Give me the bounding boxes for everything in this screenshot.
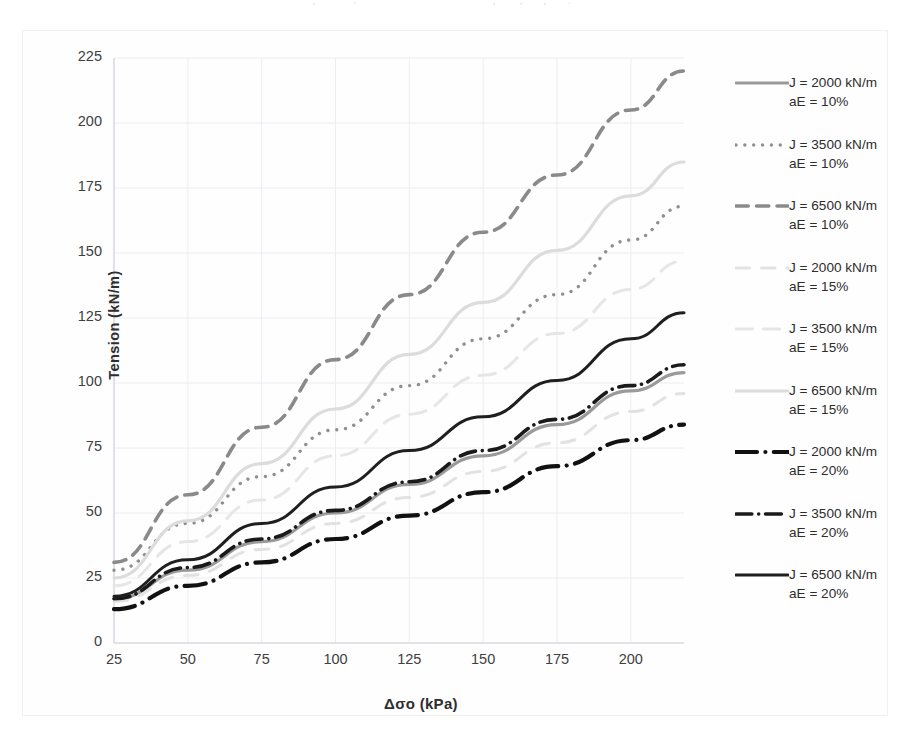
y-tick-label: 175: [56, 178, 102, 194]
scan-artifact: [280, 0, 620, 8]
legend-swatch-icon: [735, 379, 789, 413]
y-tick-label: 200: [56, 113, 102, 129]
x-tick-label: 50: [163, 651, 213, 667]
legend-item[interactable]: J = 6500 kN/maE = 20%: [735, 563, 910, 605]
legend-swatch-icon: [735, 71, 789, 105]
axis-lines: [114, 58, 684, 643]
legend-item[interactable]: J = 6500 kN/maE = 10%: [735, 194, 910, 236]
legend-swatch-icon: [735, 133, 789, 167]
legend-swatch-icon: [735, 317, 789, 351]
series-line-8: [114, 365, 684, 599]
legend-label: J = 2000 kN/maE = 20%: [789, 440, 877, 480]
y-axis-title: Tension (kN/m): [106, 230, 122, 420]
legend-label-line2: aE = 10%: [789, 215, 877, 234]
y-tick-label: 225: [56, 48, 102, 64]
legend-item[interactable]: J = 2000 kN/maE = 15%: [735, 256, 910, 298]
legend-label: J = 2000 kN/maE = 10%: [789, 71, 877, 111]
legend-item[interactable]: J = 2000 kN/maE = 20%: [735, 440, 910, 482]
legend-label-line2: aE = 15%: [789, 277, 877, 296]
legend-item[interactable]: J = 6500 kN/maE = 15%: [735, 379, 910, 421]
legend-label-line1: J = 6500 kN/m: [789, 196, 877, 215]
legend-label: J = 6500 kN/maE = 15%: [789, 379, 877, 419]
legend-label-line2: aE = 10%: [789, 154, 877, 173]
legend-label-line2: aE = 10%: [789, 92, 877, 111]
y-tick-label: 100: [56, 373, 102, 389]
legend-item[interactable]: J = 2000 kN/maE = 10%: [735, 71, 910, 113]
legend-label: J = 3500 kN/maE = 15%: [789, 317, 877, 357]
legend-label-line2: aE = 20%: [789, 584, 877, 603]
chart-legend: J = 2000 kN/maE = 10%J = 3500 kN/maE = 1…: [735, 71, 910, 625]
legend-label-line1: J = 2000 kN/m: [789, 442, 877, 461]
y-tick-label: 75: [56, 438, 102, 454]
legend-swatch-icon: [735, 440, 789, 474]
legend-label-line1: J = 3500 kN/m: [789, 319, 877, 338]
x-tick-label: 125: [384, 651, 434, 667]
legend-label: J = 3500 kN/maE = 10%: [789, 133, 877, 173]
x-tick-label: 75: [237, 651, 287, 667]
y-tick-label: 25: [56, 568, 102, 584]
legend-item[interactable]: J = 3500 kN/maE = 10%: [735, 133, 910, 175]
legend-label-line2: aE = 15%: [789, 338, 877, 357]
y-tick-label: 0: [56, 633, 102, 649]
data-series-group: [114, 71, 684, 609]
x-tick-label: 100: [311, 651, 361, 667]
x-tick-label: 200: [606, 651, 656, 667]
legend-label: J = 6500 kN/maE = 20%: [789, 563, 877, 603]
legend-label-line1: J = 6500 kN/m: [789, 381, 877, 400]
series-line-5: [114, 261, 684, 586]
legend-label: J = 2000 kN/maE = 15%: [789, 256, 877, 296]
legend-item[interactable]: J = 3500 kN/maE = 15%: [735, 317, 910, 359]
x-tick-label: 150: [458, 651, 508, 667]
gridlines: [114, 58, 684, 643]
legend-label-line2: aE = 15%: [789, 400, 877, 419]
legend-swatch-icon: [735, 502, 789, 536]
legend-label-line1: J = 3500 kN/m: [789, 135, 877, 154]
y-tick-label: 50: [56, 503, 102, 519]
legend-label: J = 6500 kN/maE = 10%: [789, 194, 877, 234]
legend-swatch-icon: [735, 256, 789, 290]
legend-label: J = 3500 kN/maE = 20%: [789, 502, 877, 542]
legend-label-line2: aE = 20%: [789, 523, 877, 542]
x-tick-label: 25: [89, 651, 139, 667]
legend-label-line1: J = 6500 kN/m: [789, 565, 877, 584]
y-tick-label: 125: [56, 308, 102, 324]
legend-swatch-icon: [735, 194, 789, 228]
y-tick-label: 150: [56, 243, 102, 259]
series-line-3: [114, 71, 684, 562]
x-axis-title: Δσo (kPa): [136, 695, 706, 712]
x-tick-label: 175: [532, 651, 582, 667]
legend-label-line1: J = 2000 kN/m: [789, 258, 877, 277]
legend-item[interactable]: J = 3500 kN/maE = 20%: [735, 502, 910, 544]
chart-figure: 2252001751501251007550250 25507510012515…: [22, 30, 888, 716]
legend-label-line1: J = 3500 kN/m: [789, 504, 877, 523]
legend-label-line1: J = 2000 kN/m: [789, 73, 877, 92]
legend-label-line2: aE = 20%: [789, 461, 877, 480]
legend-swatch-icon: [735, 563, 789, 597]
